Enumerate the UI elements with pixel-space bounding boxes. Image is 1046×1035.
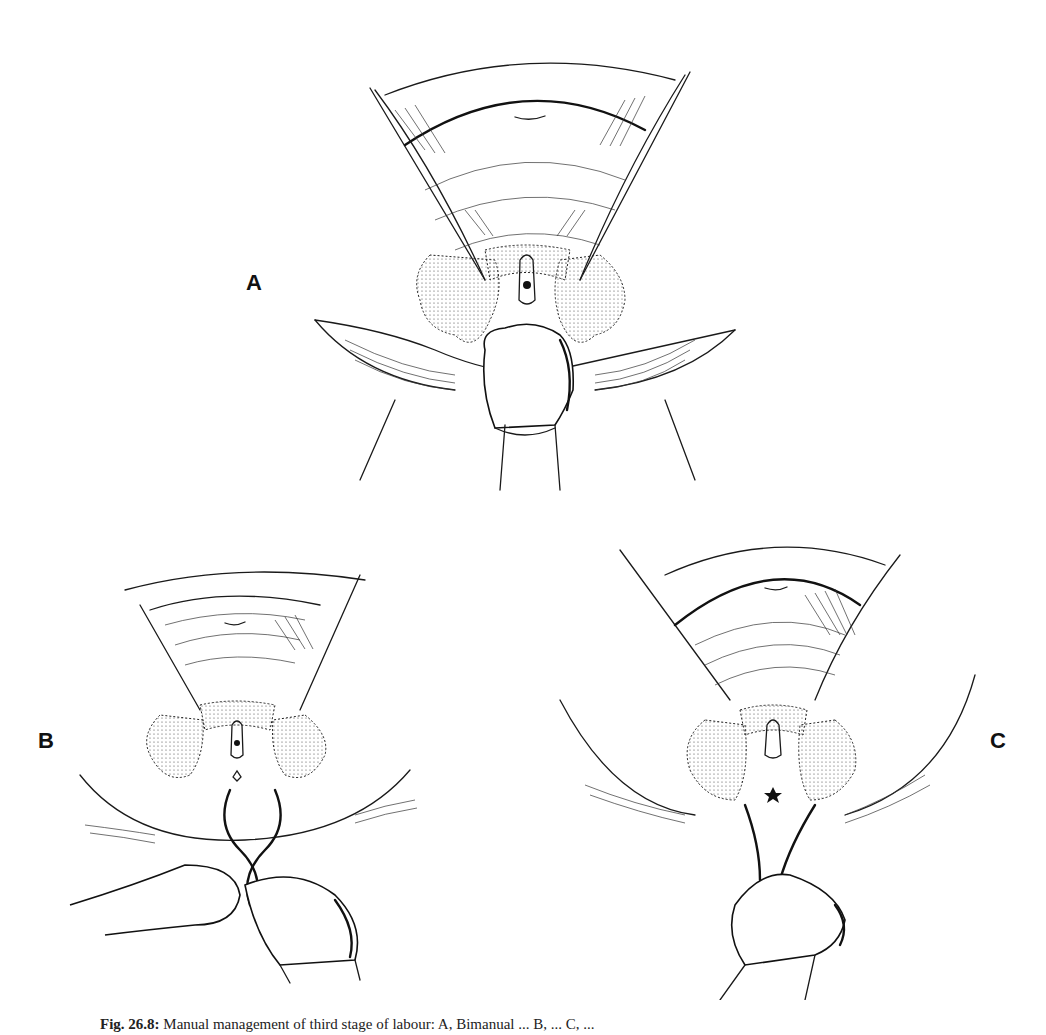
panel-c-illustration <box>545 525 990 1000</box>
illustration-b <box>65 565 435 985</box>
panel-label-c: C <box>990 728 1006 754</box>
illustration-c <box>545 525 990 1000</box>
illustration-a <box>305 50 745 495</box>
figure-caption-text: Manual management of third stage of labo… <box>163 1016 594 1032</box>
figure-number: Fig. 26.8: <box>100 1016 160 1032</box>
panel-a-illustration <box>305 50 745 495</box>
figure-caption: Fig. 26.8: Manual management of third st… <box>100 1016 595 1033</box>
panel-b-illustration <box>65 565 435 985</box>
panel-label-a: A <box>246 270 262 296</box>
panel-label-b: B <box>38 728 54 754</box>
